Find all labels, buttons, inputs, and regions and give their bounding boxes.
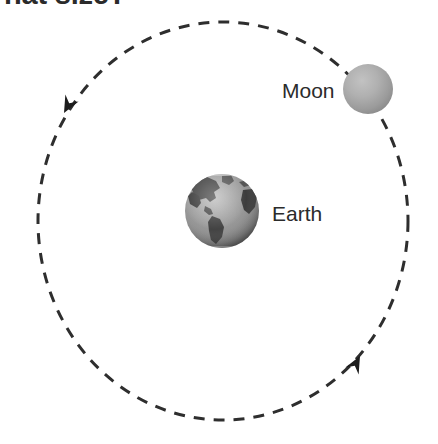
earth-sphere — [185, 172, 259, 250]
orbit-direction-arrow-upper-left — [57, 94, 78, 116]
moon-label: Moon — [282, 79, 335, 103]
moon-sphere — [343, 64, 393, 114]
orbit-diagram-figure: hat size? — [0, 0, 438, 444]
orbit-scene — [0, 0, 438, 444]
orbit-direction-arrow-lower-right — [345, 352, 366, 374]
earth-label: Earth — [272, 202, 322, 226]
